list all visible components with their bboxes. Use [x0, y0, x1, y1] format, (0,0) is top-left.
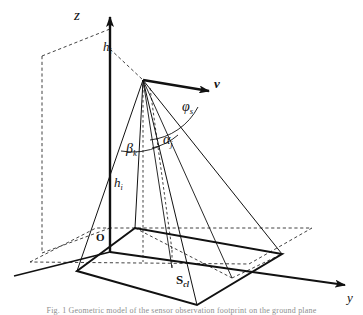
z-axis-label: z [74, 8, 80, 23]
height-mid-subscript: i [121, 183, 123, 192]
beta-angle-label: βk [126, 142, 137, 157]
figure-caption: Fig. 1 Geometric model of the sensor obs… [0, 306, 363, 315]
beta-angle-subscript: k [133, 148, 137, 158]
azimuth-angle-label: φs [182, 100, 193, 115]
vertical-plane-top-edge [42, 29, 110, 56]
geometry-diagram-svg [0, 0, 363, 315]
origin-label: O [96, 232, 105, 243]
azimuth-angle-subscript: s [190, 106, 193, 116]
footprint-area-label: Scl [176, 273, 189, 289]
cone-edge-mid [143, 80, 172, 268]
height-mid-label: hi [114, 176, 123, 192]
velocity-arrow [143, 80, 209, 91]
footprint-area-subscript: cl [183, 280, 189, 289]
figure-root: z hi hi v φs αj βk O Scl y Fig. 1 Geomet… [0, 0, 363, 315]
ground-footprint-quad [77, 228, 282, 305]
x-axis-line [14, 252, 110, 276]
y-axis-label: y [347, 291, 353, 304]
footprint-solid-quad [77, 228, 282, 305]
alpha-angle-label: αj [163, 133, 173, 148]
height-top-subscript: i [110, 47, 112, 56]
x-axis [14, 252, 110, 276]
footprint-diagonal-dashed [135, 228, 232, 278]
height-top-label: hi [103, 40, 112, 56]
velocity-vector [143, 80, 209, 91]
alpha-angle-subscript: j [170, 139, 172, 149]
footprint-inner-dashed [135, 228, 282, 278]
apex-to-plane-dashed [110, 49, 143, 80]
velocity-vector-label: v [214, 77, 220, 90]
